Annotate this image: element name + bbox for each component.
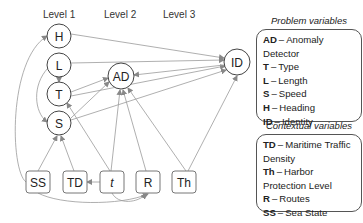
node-H[interactable]: H <box>47 24 71 48</box>
svg-text:Th: Th <box>177 176 191 190</box>
edge-TD-S <box>61 136 74 171</box>
edge-L-S <box>37 68 48 122</box>
svg-text:H: H <box>55 30 64 44</box>
legend-row-TD: TD–Maritime Traffic Density <box>263 138 355 165</box>
svg-text:AD: AD <box>113 70 130 84</box>
svg-text:S: S <box>55 117 63 131</box>
edge-t-AD <box>111 90 120 171</box>
node-SS[interactable]: SS <box>26 171 50 193</box>
node-TD[interactable]: TD <box>63 171 87 193</box>
legend-row-AD: AD–Anomaly Detector <box>263 33 355 60</box>
node-ID[interactable]: ID <box>224 49 250 75</box>
svg-text:TD: TD <box>67 176 83 190</box>
edge-L-ID <box>71 60 224 63</box>
svg-text:L: L <box>56 59 63 73</box>
edge-Th-ID <box>188 76 237 171</box>
svg-text:R: R <box>144 176 153 190</box>
legend-row-R: R–Routes <box>263 192 355 206</box>
legend-row-L: L–Length <box>263 74 355 88</box>
edge-Th-AD <box>128 88 186 171</box>
problem-legend-title: Problem variables <box>256 15 362 26</box>
legend-row-H: H–Heading <box>263 101 355 115</box>
node-t[interactable]: t <box>100 171 124 193</box>
legend-row-T: T–Type <box>263 60 355 74</box>
edge-t-R <box>112 193 146 201</box>
edge-H-ID <box>71 34 224 58</box>
node-T[interactable]: T <box>47 82 71 106</box>
contextual-legend: TD–Maritime Traffic Density Th–Harbor Pr… <box>256 134 362 212</box>
node-S[interactable]: S <box>47 111 71 135</box>
edge-T-ID <box>71 66 225 96</box>
contextual-legend-title: Contextual variables <box>256 120 362 131</box>
legend-row-t: t–Time <box>263 220 355 223</box>
svg-text:T: T <box>55 88 63 102</box>
node-Th[interactable]: Th <box>172 171 196 193</box>
node-AD[interactable]: AD <box>108 63 134 89</box>
legend-row-Th: Th–Harbor Protection Level <box>263 165 355 192</box>
edge-SS-H <box>15 36 47 182</box>
edge-t-T <box>67 103 110 171</box>
node-R[interactable]: R <box>136 171 160 193</box>
edge-SS-S <box>38 136 57 171</box>
edge-R-AD <box>123 90 146 171</box>
legend-row-S: S–Speed <box>263 87 355 101</box>
svg-text:SS: SS <box>30 176 46 190</box>
svg-text:ID: ID <box>231 56 243 70</box>
node-L[interactable]: L <box>47 53 71 77</box>
legend-row-SS: SS–Sea State <box>263 206 355 220</box>
edge-S-ID <box>71 70 226 120</box>
edge-ID-AD <box>134 65 224 75</box>
edge-S-AD <box>71 82 109 118</box>
problem-legend: AD–Anomaly Detector T–Type L–Length S–Sp… <box>256 29 362 122</box>
